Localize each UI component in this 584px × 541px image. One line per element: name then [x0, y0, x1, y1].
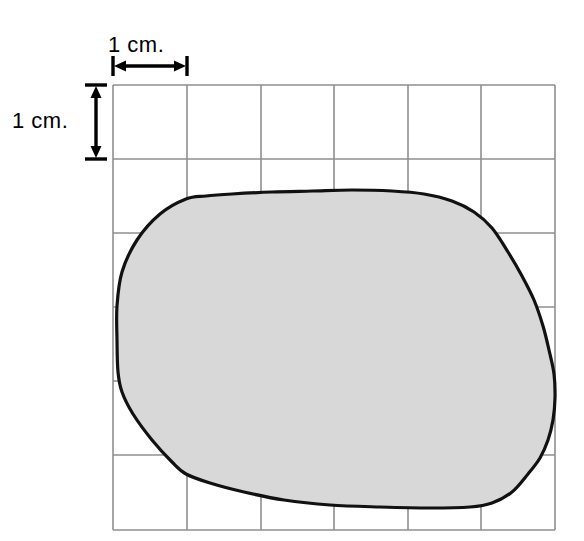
vertical-scale-label: 1 cm. [12, 108, 68, 134]
horizontal-scale-label: 1 cm. [108, 32, 164, 58]
irregular-region [117, 190, 555, 508]
area-grid-figure [0, 0, 584, 541]
